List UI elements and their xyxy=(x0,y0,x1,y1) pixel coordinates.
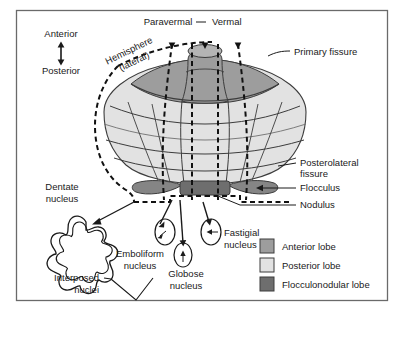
emboliform-nucleus-label-2: nucleus xyxy=(124,260,157,271)
flocculonodular-lobe-group xyxy=(132,181,278,195)
legend-swatch-anterior-lobe xyxy=(260,239,274,253)
vermal-label: Vermal xyxy=(212,16,242,27)
paravermal-label: Paravermal xyxy=(144,16,193,27)
globose-nucleus-label-1: Globose xyxy=(168,268,203,279)
flocculus-label: Flocculus xyxy=(300,182,340,193)
legend-swatch-flocculonodular-lobe xyxy=(260,277,274,291)
dentate-nucleus-label-2: nucleus xyxy=(46,193,79,204)
figure-canvas: Anterior Posterior xyxy=(0,0,405,337)
globose-nucleus-label-2: nucleus xyxy=(170,280,203,291)
nodulus-label: Nodulus xyxy=(300,199,335,210)
fastigial-nucleus-label-2: nucleus xyxy=(224,239,257,250)
fastigial-nucleus-label-1: Fastigial xyxy=(224,227,259,238)
legend-label-flocculonodular-lobe: Flocculonodular lobe xyxy=(282,279,370,290)
legend-item-posterior-lobe: Posterior lobe xyxy=(260,258,341,272)
interposed-nuclei-label-2: nuclei xyxy=(74,284,99,295)
anterior-label: Anterior xyxy=(44,28,77,39)
legend-label-anterior-lobe: Anterior lobe xyxy=(282,241,336,252)
legend-item-anterior-lobe: Anterior lobe xyxy=(260,239,336,253)
legend-label-posterior-lobe: Posterior lobe xyxy=(282,260,341,271)
posterolateral-fissure-label-2: fissure xyxy=(300,168,328,179)
dentate-nucleus-label-1: Dentate xyxy=(45,181,78,192)
interposed-nuclei-label-1: Interposed xyxy=(54,272,99,283)
posterior-label: Posterior xyxy=(42,65,80,76)
legend-swatch-posterior-lobe xyxy=(260,258,274,272)
emboliform-nucleus-label-1: Emboliform xyxy=(116,248,164,259)
posterolateral-fissure-label-1: Posterolateral xyxy=(300,157,359,168)
primary-fissure-label: Primary fissure xyxy=(294,46,357,57)
nodulus-shape xyxy=(180,181,230,195)
